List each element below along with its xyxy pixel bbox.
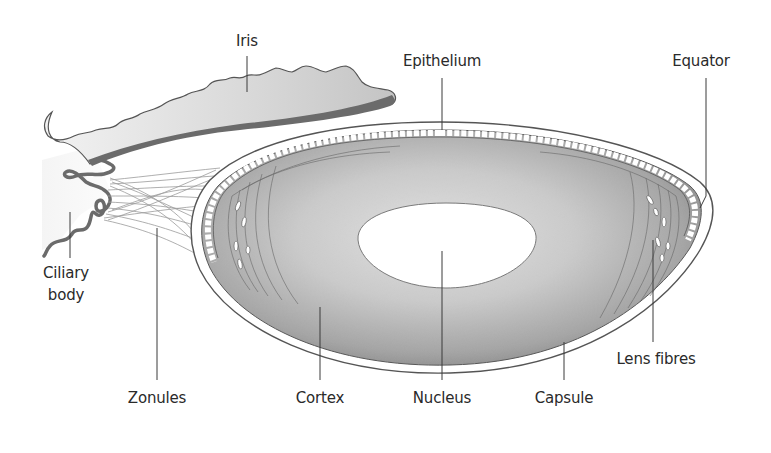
label-nucleus: Nucleus	[413, 389, 471, 407]
label-lens-fibres: Lens fibres	[616, 350, 695, 368]
label-zonules: Zonules	[128, 389, 186, 407]
label-epithelium: Epithelium	[403, 52, 481, 70]
label-ciliary-body: Ciliary body	[43, 262, 89, 306]
label-equator: Equator	[672, 52, 730, 70]
label-ciliary-body-line2: body	[48, 286, 84, 304]
label-cortex: Cortex	[296, 389, 344, 407]
label-iris: Iris	[236, 32, 258, 50]
lens-anatomy-diagram	[0, 0, 771, 453]
label-capsule: Capsule	[535, 389, 594, 407]
lens	[191, 122, 713, 373]
label-ciliary-body-line1: Ciliary	[43, 264, 89, 282]
